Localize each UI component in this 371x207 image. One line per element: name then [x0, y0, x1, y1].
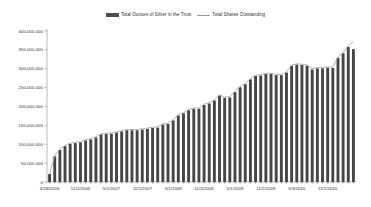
- bar: [290, 66, 293, 182]
- x-tick-label: 11/2/2009: [256, 186, 276, 191]
- bar: [234, 92, 237, 182]
- bar: [239, 87, 242, 182]
- legend-label-bars: Total Ounces of Silver in the Trust: [121, 12, 191, 18]
- bar: [89, 139, 92, 182]
- bar: [136, 130, 139, 182]
- bar: [264, 74, 267, 182]
- bar: [167, 124, 170, 182]
- y-tick-label: 200,000,000: [19, 104, 44, 109]
- bar: [270, 74, 273, 182]
- y-tick-label: 300,000,000: [19, 66, 44, 71]
- bar: [300, 65, 303, 182]
- y-tick-label: 50,000,000: [21, 161, 44, 166]
- bar: [156, 128, 159, 182]
- bar: [213, 100, 216, 182]
- bar: [208, 103, 211, 182]
- bar: [48, 174, 51, 182]
- bar: [218, 96, 221, 182]
- plot-area: 400,000,000350,000,000300,000,000250,000…: [0, 22, 371, 207]
- bar: [331, 68, 334, 182]
- legend-entry-line: Total Shares Outstanding: [197, 12, 265, 18]
- y-tick-label: 250,000,000: [19, 85, 44, 90]
- bar: [337, 58, 340, 182]
- bar: [295, 65, 298, 182]
- bar: [347, 47, 350, 182]
- silver-trust-chart: Total Ounces of Silver in the Trust Tota…: [0, 0, 371, 207]
- y-tick-label: 100,000,000: [19, 142, 44, 147]
- bar: [84, 140, 87, 182]
- bar: [100, 134, 103, 182]
- bar: [259, 76, 262, 182]
- bar: [64, 146, 67, 182]
- x-tick-label: 4/28/2006: [40, 186, 60, 191]
- bar: [161, 125, 164, 182]
- bar: [306, 66, 309, 182]
- x-tick-label: 11/1/2010: [318, 186, 338, 191]
- legend-label-line: Total Shares Outstanding: [212, 12, 265, 18]
- bar: [105, 134, 108, 182]
- bar-swatch-icon: [106, 13, 119, 17]
- x-tick-label: 5/3/2010: [288, 186, 306, 191]
- x-tick-label: 11/3/2008: [194, 186, 214, 191]
- bar: [187, 110, 190, 182]
- y-tick-label: 150,000,000: [19, 123, 44, 128]
- bar: [192, 109, 195, 182]
- bar: [249, 79, 252, 182]
- bar-series: [48, 47, 355, 182]
- bar: [115, 133, 118, 182]
- chart-canvas: 400,000,000350,000,000300,000,000250,000…: [0, 22, 371, 207]
- bar: [311, 70, 314, 183]
- bar: [74, 143, 77, 182]
- bar: [58, 150, 61, 182]
- bar: [110, 134, 113, 182]
- bar: [131, 130, 134, 182]
- y-tick-label: 0: [41, 180, 44, 185]
- bar: [280, 75, 283, 182]
- x-tick-label: 5/1/2007: [103, 186, 121, 191]
- bar: [275, 75, 278, 182]
- bar: [326, 68, 329, 182]
- bar: [197, 109, 200, 182]
- bar: [342, 53, 345, 182]
- bar: [177, 116, 180, 182]
- bar: [69, 144, 72, 182]
- bar: [352, 49, 355, 182]
- bar: [285, 73, 288, 182]
- x-axis-labels: 4/28/200611/1/20065/1/200711/1/20075/1/2…: [40, 186, 338, 191]
- x-tick-label: 11/1/2007: [133, 186, 153, 191]
- bar: [79, 142, 82, 182]
- y-tick-label: 400,000,000: [19, 29, 44, 34]
- y-tick-label: 350,000,000: [19, 47, 44, 52]
- chart-legend: Total Ounces of Silver in the Trust Tota…: [0, 9, 371, 21]
- bar: [172, 120, 175, 182]
- x-tick-label: 5/1/2008: [165, 186, 183, 191]
- bar: [146, 129, 149, 182]
- line-swatch-icon: [197, 15, 210, 16]
- y-axis: 400,000,000350,000,000300,000,000250,000…: [19, 29, 47, 185]
- x-axis: [47, 182, 356, 184]
- x-tick-label: 5/1/2009: [226, 186, 244, 191]
- bar: [228, 97, 231, 182]
- bar: [125, 130, 128, 182]
- bar: [94, 137, 97, 182]
- bar: [151, 128, 154, 182]
- bar: [203, 105, 206, 182]
- bar: [182, 113, 185, 182]
- bar: [316, 68, 319, 182]
- legend-entry-bars: Total Ounces of Silver in the Trust: [106, 12, 191, 18]
- x-tick-label: 11/1/2006: [71, 186, 91, 191]
- bar: [244, 84, 247, 182]
- bar: [321, 68, 324, 182]
- bar: [223, 98, 226, 182]
- bar: [120, 131, 123, 182]
- bar: [254, 76, 257, 182]
- bar: [141, 130, 144, 182]
